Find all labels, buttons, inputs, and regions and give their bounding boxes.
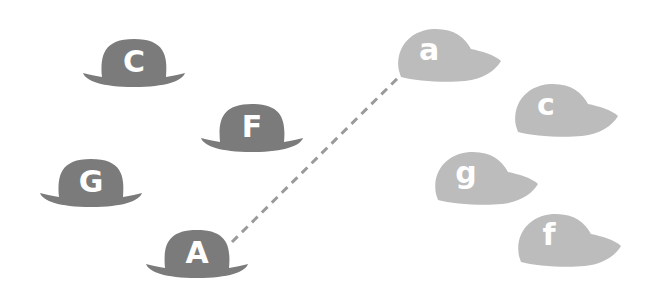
hat-matching-diagram: C F G A a c g [0, 0, 650, 308]
hat-label: c [512, 90, 580, 120]
bowler-hat-A: A [145, 228, 249, 280]
hat-label: C [82, 47, 186, 77]
hat-label: f [515, 220, 583, 250]
cap-c: c [512, 82, 620, 142]
cap-g: g [432, 150, 540, 210]
bowler-hat-F: F [200, 102, 304, 154]
hat-label: g [432, 158, 500, 188]
hat-label: G [39, 167, 143, 197]
bowler-hat-C: C [82, 37, 186, 89]
cap-f: f [515, 212, 623, 272]
hat-label: A [145, 238, 249, 268]
cap-a: a [395, 27, 503, 87]
hat-label: a [395, 35, 463, 65]
bowler-hat-G: G [39, 157, 143, 209]
hat-label: F [200, 112, 304, 142]
